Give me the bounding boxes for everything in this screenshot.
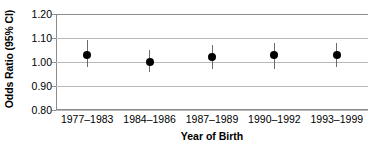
odds-ratio-marker: [83, 51, 91, 59]
odds-ratio-marker: [333, 51, 341, 59]
x-axis-tick-labels: 1977–19831984–19861987–19891990–19921993…: [56, 113, 368, 127]
y-tick-label: 1.10: [20, 33, 52, 44]
y-tick-mark: [52, 62, 56, 63]
x-tick-label: 1990–1992: [248, 113, 301, 126]
y-axis-tick-labels: 0.800.901.001.101.20: [18, 0, 52, 118]
y-tick-label: 0.90: [20, 81, 52, 92]
odds-ratio-marker: [146, 58, 154, 66]
y-tick-label: 1.00: [20, 57, 52, 68]
y-tick-label: 0.80: [20, 105, 52, 116]
y-tick-mark: [52, 14, 56, 15]
odds-ratio-marker: [270, 51, 278, 59]
x-tick-label: 1987–1989: [186, 113, 239, 126]
y-axis-title-text: Odds Ratio (95% CI): [3, 10, 15, 108]
odds-ratio-marker: [208, 53, 216, 61]
x-tick-label: 1984–1986: [123, 113, 176, 126]
plot-area: [56, 14, 368, 110]
y-tick-mark: [52, 38, 56, 39]
gridline: [56, 14, 368, 15]
gridline: [56, 110, 368, 111]
x-axis-title: Year of Birth: [56, 130, 368, 142]
gridline: [56, 86, 368, 87]
x-tick-label: 1977–1983: [61, 113, 114, 126]
y-tick-mark: [52, 86, 56, 87]
y-tick-label: 1.20: [20, 9, 52, 20]
x-tick-label: 1993–1999: [311, 113, 364, 126]
y-axis-title: Odds Ratio (95% CI): [0, 0, 18, 118]
y-tick-mark: [52, 110, 56, 111]
odds-ratio-forest-chart: Odds Ratio (95% CI) 0.800.901.001.101.20…: [0, 0, 376, 151]
gridline: [56, 38, 368, 39]
